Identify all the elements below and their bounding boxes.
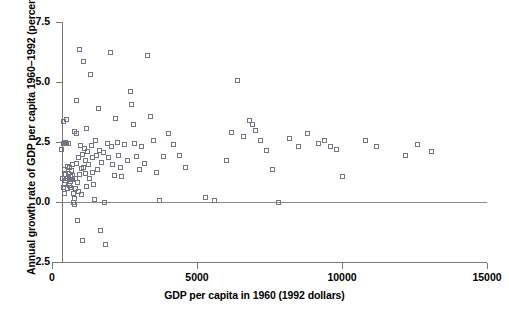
data-point [79,192,84,197]
data-point [340,174,345,179]
data-point [139,144,144,149]
data-point [171,142,176,147]
data-point [81,59,86,64]
data-point [110,162,115,167]
data-point [62,191,67,196]
data-point [212,198,217,203]
data-point [80,238,85,243]
y-tick-label: 2.5 [8,135,50,147]
y-tick-label: 7.5 [8,15,50,27]
data-point [296,144,301,149]
data-point [85,149,90,154]
x-tick [342,263,343,269]
data-point [109,144,114,149]
zero-reference-line [62,202,487,203]
data-point [203,195,208,200]
data-point [131,122,136,127]
data-point [403,153,408,158]
data-point [91,182,96,187]
data-point [72,202,77,207]
data-point [328,144,333,149]
data-point [89,143,94,148]
x-axis-line [52,262,487,263]
data-point [94,153,99,158]
data-point [64,117,69,122]
x-tick [197,263,198,269]
data-point [66,141,71,146]
data-point [77,47,82,52]
data-point [88,72,93,77]
data-point [74,98,79,103]
data-point [101,150,106,155]
data-point [108,50,113,55]
data-point [116,153,121,158]
data-point [276,200,281,205]
data-point [229,130,234,135]
data-point [154,170,159,175]
data-point [128,89,133,94]
data-point [125,158,130,163]
data-point [74,131,79,136]
data-point [93,138,98,143]
data-point [157,198,162,203]
data-point [115,140,120,145]
data-point [134,154,139,159]
data-point [224,158,229,163]
data-point [363,138,368,143]
data-point [334,147,339,152]
data-point [59,147,64,152]
data-point [86,162,91,167]
y-tick [56,22,63,23]
data-point [99,160,104,165]
data-point [92,197,97,202]
data-point [96,106,101,111]
data-point [429,149,434,154]
data-point [287,136,292,141]
data-point [106,155,111,160]
y-tick [56,262,63,263]
data-point [113,116,118,121]
y-tick-label: 0.0 [8,195,50,207]
data-point [122,142,127,147]
x-tick-label: 5000 [167,271,227,283]
data-point [161,154,166,159]
data-point [250,122,255,127]
data-point [166,131,171,136]
data-point [305,131,310,136]
data-point [177,153,182,158]
y-tick-label: 5.0 [8,75,50,87]
data-point [112,173,117,178]
data-point [151,138,156,143]
data-point [119,174,124,179]
data-point [102,200,107,205]
data-point [129,102,134,107]
data-point [87,176,92,181]
data-point [270,167,275,172]
data-point [415,142,420,147]
plot-area: -2.50.02.55.07.5 050001000015000 [0,0,509,312]
data-point [75,180,80,185]
y-tick [56,202,63,203]
data-point [142,161,147,166]
data-point [84,126,89,131]
data-point [75,218,80,223]
data-point [95,167,100,172]
data-point [77,172,82,177]
data-point [258,138,263,143]
data-point [374,144,379,149]
x-tick [52,263,53,269]
data-point [183,165,188,170]
data-point [145,53,150,58]
data-point [103,242,108,247]
data-point [72,196,77,201]
data-point [322,138,327,143]
data-point [316,141,321,146]
y-tick-label: -2.5 [8,255,50,267]
x-tick-label: 10000 [312,271,372,283]
scatter-chart-figure: Annual growth rate of GDP per capita 196… [0,0,509,312]
data-point [148,114,153,119]
x-tick-label: 15000 [457,271,509,283]
data-point [98,228,103,233]
data-point [253,128,258,133]
x-tick-label: 0 [22,271,82,283]
